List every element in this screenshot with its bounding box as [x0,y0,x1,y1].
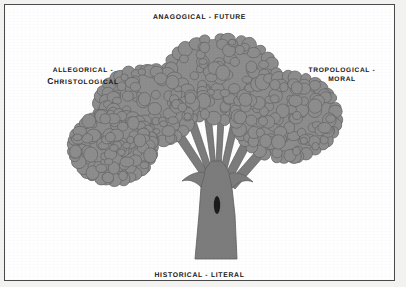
foliage-blob [122,91,133,101]
foliage-blob [178,103,187,112]
foliage-blob [105,132,115,141]
foliage-blob [84,147,98,162]
foliage-blob [148,103,162,115]
label-allegorical-line2: CHRISTOLOGICAL [31,76,135,88]
label-allegorical-christological: ALLEGORICAL - CHRISTOLOGICAL [31,67,135,88]
trunk-knot [214,196,220,214]
tree-trunk-group [182,161,253,259]
foliage-blob [270,80,280,90]
tree-illustration: A gray illustrated tree with a thick tru… [9,9,400,286]
foliage-blob [246,61,257,72]
label-anagogical-text: ANAGOGICAL - FUTURE [5,13,394,22]
label-tropological-line1: TROPOLOGICAL - [287,67,397,76]
foliage-blob [230,57,239,66]
foliage-blob [138,92,150,106]
foliage-blob [162,126,175,137]
foliage-blob [73,134,82,140]
figure-frame-border: A gray illustrated tree with a thick tru… [4,4,395,281]
foliage-blob [308,99,322,113]
label-tropological-moral: TROPOLOGICAL - MORAL [287,67,397,85]
foliage-blob [318,122,331,133]
foliage-blob [180,55,189,63]
foliage-blob [70,145,82,158]
foliage-blob [312,142,319,150]
foliage-blob [260,134,272,147]
foliage-blob [151,90,160,99]
foliage-blob [272,135,286,149]
foliage-blob [258,117,267,126]
foliage-blob [138,69,146,76]
foliage-blob [220,89,229,97]
foliage-blob [326,115,336,123]
foliage-blob [293,147,300,155]
trunk-shoulder-right [229,173,253,188]
foliage-blob [270,95,279,103]
label-historical-literal: HISTORICAL - LITERAL [5,271,394,280]
foliage-blob [166,75,179,89]
foliage-blob [293,112,301,120]
foliage-blob [242,76,252,83]
foliage-blob [154,73,167,84]
foliage-blob [184,113,192,120]
foliage-blob [185,92,195,104]
foliage-blob [100,114,110,124]
foliage-blob [246,115,257,126]
foliage-blob [110,145,118,152]
foliage-blob [120,157,134,167]
foliage-blob [119,171,128,180]
foliage-blob [190,72,199,80]
foliage-blob [234,111,247,124]
foliage-blob [105,159,113,165]
foliage-blob [216,65,230,80]
foliage-blob [200,109,209,119]
foliage-blob [123,142,131,148]
foliage-blob [144,148,157,163]
figure-root: A gray illustrated tree with a thick tru… [0,0,406,287]
foliage-blob [102,172,113,183]
foliage-blob [228,39,235,45]
foliage-blob [235,45,244,54]
label-anagogical-future: ANAGOGICAL - FUTURE [5,13,394,22]
foliage-blob [289,95,302,107]
foliage-blob [96,164,107,172]
label-allegorical-line1: ALLEGORICAL - [31,67,135,76]
foliage-blob [300,137,307,144]
label-allegorical-lead-cap: C [47,76,54,86]
foliage-blob [128,116,140,129]
label-historical-text: HISTORICAL - LITERAL [5,271,394,280]
foliage-blob [134,134,146,147]
foliage-blob [118,149,126,156]
lower-left-canopy [67,107,158,186]
label-tropological-line2: MORAL [287,76,397,85]
label-allegorical-rest: HRISTOLOGICAL [54,79,119,86]
foliage-blob [200,42,210,53]
foliage-blob [199,59,207,65]
trunk-shoulder-left [182,172,205,187]
foliage-blob [259,61,269,69]
foliage-blob [239,93,252,106]
foliage-blob [82,114,96,128]
foliage-blob [168,117,178,125]
